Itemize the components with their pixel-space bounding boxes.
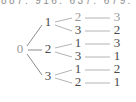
edge-2-3 xyxy=(55,52,72,57)
edge-2-1 xyxy=(55,44,72,48)
edge-1-2 xyxy=(55,18,72,22)
node-label-l3-5: 1 xyxy=(114,74,121,89)
nodes-level2: 2 3 1 3 1 2 xyxy=(75,9,82,89)
edge-3-1 xyxy=(55,70,72,75)
edges-level1-to-level2 xyxy=(55,18,72,83)
tree-diagram-figure: 887. 916. 637. 679. 73 0 1 xyxy=(0,0,136,102)
edge-root-1 xyxy=(27,25,42,46)
edge-root-3 xyxy=(27,54,42,75)
node-label-l1-2: 3 xyxy=(45,68,52,83)
edges-root-to-level1 xyxy=(27,25,42,75)
edge-1-3 xyxy=(55,25,72,31)
node-root: 0 xyxy=(17,41,24,56)
node-label-root: 0 xyxy=(17,41,24,56)
tree-svg: 0 1 2 3 2 3 1 3 1 2 3 2 3 1 2 1 xyxy=(0,0,136,102)
nodes-level1: 1 2 3 xyxy=(45,14,52,83)
edges-level2-to-level3 xyxy=(85,18,110,83)
node-label-l1-1: 2 xyxy=(45,41,52,56)
node-label-l1-0: 1 xyxy=(45,14,52,29)
edge-3-2 xyxy=(55,78,72,83)
node-label-l2-5: 2 xyxy=(75,74,82,89)
nodes-level3: 3 2 3 1 2 1 xyxy=(114,9,121,89)
